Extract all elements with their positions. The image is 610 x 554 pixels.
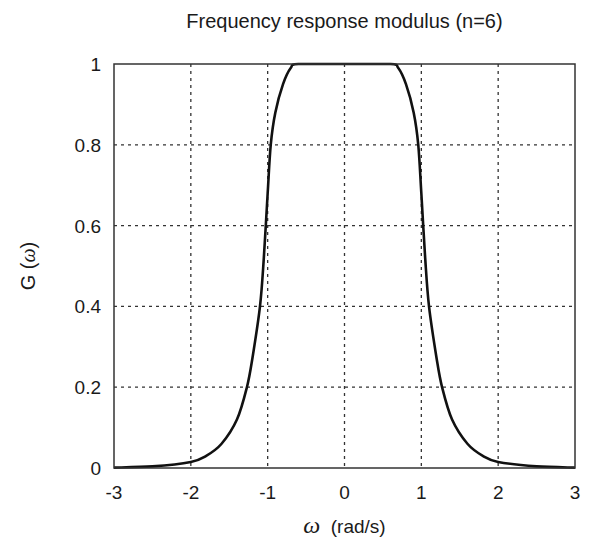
x-tick-label: -2	[182, 482, 199, 503]
y-tick-label: 0.8	[75, 135, 101, 156]
tick-labels: -3-2-1012300.20.40.60.81	[75, 54, 581, 503]
y-tick-label: 0.2	[75, 377, 101, 398]
y-tick-label: 1	[90, 54, 101, 75]
grid-lines	[114, 64, 575, 468]
y-tick-label: 0.4	[75, 296, 102, 317]
x-tick-label: -1	[259, 482, 276, 503]
x-axis-label: ω (rad/s)	[114, 512, 575, 539]
x-tick-label: 3	[570, 482, 581, 503]
x-tick-label: 0	[339, 482, 350, 503]
plot-area: -3-2-1012300.20.40.60.81	[0, 0, 610, 554]
y-tick-label: 0	[90, 458, 101, 479]
y-tick-label: 0.6	[75, 216, 101, 237]
y-axis-label: G (ω)	[17, 242, 40, 291]
x-tick-label: 1	[416, 482, 427, 503]
x-tick-label: -3	[106, 482, 123, 503]
x-tick-label: 2	[493, 482, 504, 503]
